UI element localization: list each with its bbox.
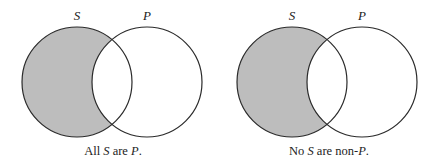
label-p: P: [357, 8, 366, 23]
venn-diagram-no-s-are-non-p: S P No S are non-P.: [237, 8, 417, 158]
caption-p: P: [357, 144, 366, 158]
caption-part: No: [289, 144, 307, 158]
venn-diagrams: S P All S are P. S P No S are non-P.: [0, 0, 437, 165]
caption-part: .: [366, 144, 369, 158]
caption: No S are non-P.: [289, 144, 369, 158]
venn-diagram-all-s-are-p: S P All S are P.: [22, 8, 202, 158]
caption-part: are non-: [314, 144, 358, 158]
caption-part: All: [84, 144, 103, 158]
caption-part: .: [139, 144, 142, 158]
label-s: S: [289, 8, 296, 23]
label-p: P: [142, 8, 151, 23]
label-s: S: [74, 8, 81, 23]
caption: All S are P.: [84, 144, 142, 158]
caption-part: are: [110, 144, 132, 158]
